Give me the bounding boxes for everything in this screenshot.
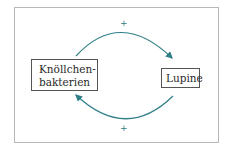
arrow-bottom-icon [76, 95, 173, 119]
node-right-label: Lupine [166, 72, 203, 84]
node-left-line2: bakterien [39, 76, 97, 89]
arrow-top-icon [76, 32, 172, 58]
edge-sign-top: + [120, 19, 128, 28]
node-left-line1: Knöllchen- [39, 63, 97, 76]
node-lupine: Lupine [161, 68, 200, 88]
edge-sign-bottom: + [120, 124, 128, 133]
node-knoellchenbakterien: Knöllchen- bakterien [31, 59, 98, 91]
